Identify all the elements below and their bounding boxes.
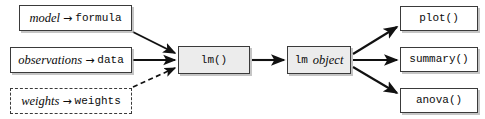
lm-workflow-diagram: model → formula observations → data weig… (0, 0, 485, 119)
input-weights-arg: weights (21, 95, 59, 108)
maps-to-arrow-icon: → (60, 13, 75, 24)
input-model-value: formula (75, 13, 121, 24)
edge-model-to-lm (133, 32, 175, 53)
process-lm-call-label: lm() (201, 55, 227, 66)
input-model-arg: model (30, 12, 61, 25)
process-node-lm-call[interactable]: lm() (178, 46, 250, 74)
output-plot-label: plot() (419, 13, 459, 24)
input-weights-value: weights (75, 96, 121, 107)
output-anova-label: anova() (416, 95, 462, 106)
output-node-anova[interactable]: anova() (400, 88, 478, 113)
edge-weights-to-lm (133, 68, 175, 87)
result-lm-object-kind: object (308, 54, 344, 67)
input-observations-arg: observations (18, 54, 82, 67)
input-node-model[interactable]: model → formula (19, 5, 132, 31)
maps-to-arrow-icon: → (59, 96, 74, 107)
output-summary-label: summary() (409, 54, 468, 65)
maps-to-arrow-icon: → (82, 55, 97, 66)
edge-lmobject-to-plot (353, 27, 397, 54)
result-node-lm-object[interactable]: lm object (287, 46, 351, 74)
output-node-summary[interactable]: summary() (400, 47, 478, 72)
input-node-observations[interactable]: observations → data (10, 47, 132, 73)
input-observations-value: data (97, 55, 123, 66)
input-node-weights[interactable]: weights → weights (10, 88, 132, 114)
result-lm-object-class: lm (295, 55, 308, 66)
edge-lmobject-to-anova (353, 67, 397, 93)
output-node-plot[interactable]: plot() (400, 6, 478, 31)
